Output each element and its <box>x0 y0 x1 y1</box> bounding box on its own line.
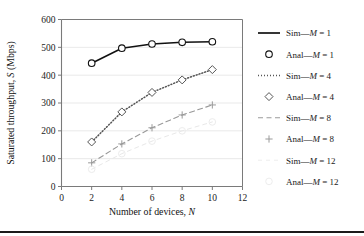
legend-swatch-circle-icon <box>266 51 273 58</box>
series-4-marker-4 <box>208 66 216 74</box>
legend-label-3: Anal—M = 4 <box>286 92 335 102</box>
series-6-marker-1 <box>118 140 125 147</box>
legend-item-2[interactable]: Sim—M = 4 <box>258 71 332 81</box>
x-tick-label-2: 2 <box>89 193 94 203</box>
series-2-marker-1 <box>119 45 126 52</box>
y-tick-label-200: 200 <box>41 126 56 136</box>
series-6-marker-2 <box>148 124 155 131</box>
legend-label-4: Sim—M = 8 <box>286 113 332 123</box>
legend-swatch-faint-circle-icon <box>266 178 273 185</box>
x-tick-label-6: 6 <box>150 193 155 203</box>
x-tick-label-12: 12 <box>238 193 248 203</box>
legend-label-5: Anal—M = 8 <box>286 134 335 144</box>
series-group-anal-m-4 <box>88 66 217 146</box>
throughput-line-chart: 0100200300400500600024681012Number of de… <box>0 0 364 236</box>
series-2-marker-3 <box>179 39 186 46</box>
legend-item-5[interactable]: Anal—M = 8 <box>265 134 334 144</box>
series-2-marker-2 <box>149 41 156 48</box>
x-tick-label-4: 4 <box>119 193 124 203</box>
series-6-marker-0 <box>88 159 95 166</box>
y-tick-label-300: 300 <box>41 98 56 108</box>
legend-item-7[interactable]: Anal—M = 12 <box>266 177 339 187</box>
x-axis-title: Number of devices, N <box>109 206 195 217</box>
legend-label-1: Anal—M = 1 <box>286 50 334 60</box>
legend-item-1[interactable]: Anal—M = 1 <box>266 50 334 60</box>
legend-label-6: Sim—M = 12 <box>286 156 336 166</box>
y-tick-label-100: 100 <box>41 154 56 164</box>
legend-label-0: Sim—M = 1 <box>286 28 331 38</box>
chart-figure: 0100200300400500600024681012Number of de… <box>0 0 364 236</box>
y-axis-title: Saturated throughput, S (Mbps) <box>5 41 17 165</box>
legend-label-7: Anal—M = 12 <box>286 177 339 187</box>
x-tick-label-0: 0 <box>59 193 64 203</box>
y-tick-label-600: 600 <box>41 15 56 25</box>
series-6-marker-4 <box>209 101 216 108</box>
series-2-marker-4 <box>209 38 216 45</box>
series-5-line <box>92 105 213 163</box>
series-4-marker-2 <box>148 88 156 96</box>
series-4-marker-3 <box>178 76 186 84</box>
legend-item-6[interactable]: Sim—M = 12 <box>258 156 336 166</box>
legend-swatch-diamond-icon <box>265 93 273 101</box>
y-tick-label-400: 400 <box>41 71 56 81</box>
series-6-marker-3 <box>179 111 186 118</box>
series-group-anal-m-8 <box>88 101 216 166</box>
page-bottom-rule <box>0 231 364 233</box>
series-2-marker-0 <box>88 60 95 67</box>
y-tick-label-500: 500 <box>41 43 56 53</box>
legend-label-2: Sim—M = 4 <box>286 71 332 81</box>
legend-item-3[interactable]: Anal—M = 4 <box>265 92 335 102</box>
legend-item-4[interactable]: Sim—M = 8 <box>258 113 332 123</box>
x-tick-label-10: 10 <box>208 193 218 203</box>
series-group-sim-m-8 <box>92 105 213 163</box>
x-tick-label-8: 8 <box>180 193 185 203</box>
y-tick-label-0: 0 <box>51 182 56 192</box>
legend-item-0[interactable]: Sim—M = 1 <box>258 28 331 38</box>
